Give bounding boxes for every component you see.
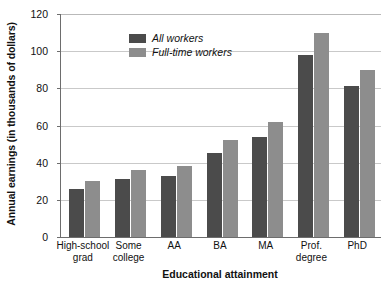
bar — [131, 170, 146, 237]
bar — [223, 140, 238, 237]
bar — [85, 181, 100, 237]
x-axis-tick-label: PhD — [330, 240, 384, 252]
legend-label: All workers — [152, 33, 203, 44]
bar — [207, 153, 222, 237]
bar — [298, 55, 313, 237]
legend-item: All workers — [129, 33, 232, 44]
y-axis-tick-label: 0 — [42, 231, 48, 243]
legend-swatch-icon — [129, 48, 146, 57]
bar-chart: Annual earnings (in thousands of dollars… — [0, 0, 392, 292]
bar — [314, 33, 329, 237]
legend-swatch-icon — [129, 34, 146, 43]
bar — [252, 137, 267, 237]
bar-group — [298, 14, 329, 237]
y-axis-tick-mark — [57, 237, 61, 238]
plot-area: All workersFull-time workers — [60, 14, 381, 238]
y-axis-tick-label: 80 — [36, 82, 48, 94]
y-axis-tick-label: 120 — [30, 8, 48, 20]
y-axis-title: Annual earnings (in thousands of dollars… — [0, 0, 22, 248]
legend: All workersFull-time workers — [129, 33, 232, 58]
bar-group — [69, 14, 100, 237]
bar — [69, 189, 84, 237]
bar — [161, 176, 176, 237]
bar — [268, 122, 283, 237]
bar-group — [344, 14, 375, 237]
y-axis-title-label: Annual earnings (in thousands of dollars… — [5, 22, 17, 226]
x-axis-title-label: Educational attainment — [162, 268, 278, 280]
bar — [115, 179, 130, 237]
legend-label: Full-time workers — [152, 47, 232, 58]
legend-item: Full-time workers — [129, 47, 232, 58]
y-axis-tick-label: 100 — [30, 45, 48, 57]
bar — [360, 70, 375, 237]
bar-group — [252, 14, 283, 237]
bar — [344, 86, 359, 237]
y-axis-tick-label: 60 — [36, 120, 48, 132]
y-axis-tick-label: 20 — [36, 194, 48, 206]
bar — [177, 166, 192, 237]
y-axis-tick-labels: 020406080100120 — [22, 8, 52, 244]
x-axis-title: Educational attainment — [60, 268, 380, 280]
y-axis-tick-label: 40 — [36, 157, 48, 169]
